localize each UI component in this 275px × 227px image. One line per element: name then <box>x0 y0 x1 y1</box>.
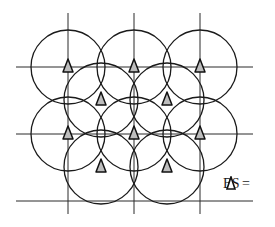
base-station-triangle-icon <box>96 159 106 172</box>
base-station-triangle-icon <box>96 92 106 105</box>
base-station-triangle-icon <box>63 126 73 139</box>
base-station-triangle-icon <box>162 92 172 105</box>
cell-layout-diagram <box>0 0 275 227</box>
triangle-icon <box>226 176 236 190</box>
base-station-triangle-icon <box>195 126 205 139</box>
base-station-triangle-icon <box>195 59 205 72</box>
base-station-triangle-icon <box>129 126 139 139</box>
base-station-triangle-icon <box>63 59 73 72</box>
base-station-triangle-icon <box>129 59 139 72</box>
legend: BS = <box>223 176 250 192</box>
base-station-triangle-icon <box>162 159 172 172</box>
